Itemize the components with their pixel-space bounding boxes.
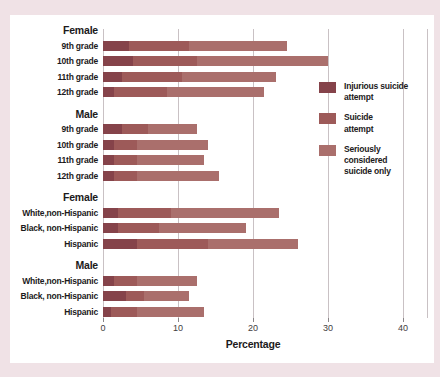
bar-2-2 (103, 239, 298, 249)
x-tick-40 (403, 318, 404, 322)
segment-considered (137, 140, 208, 150)
group-header-1: Male (12, 108, 98, 120)
segment-attempt (118, 223, 159, 233)
segment-attempt (114, 155, 137, 165)
legend-item-0: Injurious suicideattempt (319, 81, 429, 103)
legend-label-line: suicide only (344, 166, 391, 177)
segment-injurious (103, 41, 129, 51)
segment-considered (189, 41, 287, 51)
x-tick-0 (103, 318, 104, 322)
segment-considered (167, 87, 265, 97)
segment-injurious (103, 124, 122, 134)
segment-attempt (137, 239, 208, 249)
row-label-3-0: White,non-Hispanic (12, 276, 98, 286)
segment-attempt (133, 56, 197, 66)
bar-0-3 (103, 87, 264, 97)
segment-considered (144, 291, 189, 301)
segment-considered (197, 56, 328, 66)
row-label-3-1: Black, non-Hispanic (12, 291, 98, 301)
segment-considered (137, 155, 205, 165)
segment-injurious (103, 276, 114, 286)
row-label-1-1: 10th grade (12, 140, 98, 150)
segment-injurious (103, 72, 122, 82)
bar-2-0 (103, 208, 279, 218)
bar-0-2 (103, 72, 276, 82)
segment-considered (208, 239, 298, 249)
row-label-0-1: 10th grade (12, 56, 98, 66)
legend-swatch-icon (319, 82, 336, 93)
bar-2-1 (103, 223, 246, 233)
segment-injurious (103, 239, 137, 249)
segment-attempt (122, 124, 148, 134)
bar-0-0 (103, 41, 287, 51)
group-header-0: Female (12, 24, 98, 36)
x-tick-10 (178, 318, 179, 322)
x-tick-label-20: 20 (248, 323, 258, 333)
segment-considered (137, 307, 205, 317)
bar-1-0 (103, 124, 197, 134)
legend-swatch-icon (319, 145, 336, 156)
row-label-1-0: 9th grade (12, 124, 98, 134)
group-header-2: Female (12, 191, 98, 203)
segment-considered (148, 124, 197, 134)
row-label-3-2: Hispanic (12, 307, 98, 317)
group-header-3: Male (12, 259, 98, 271)
segment-considered (137, 276, 197, 286)
row-label-1-3: 12th grade (12, 171, 98, 181)
segment-attempt (118, 208, 171, 218)
segment-injurious (103, 171, 114, 181)
segment-attempt (114, 140, 137, 150)
legend-label: Seriouslyconsideredsuicide only (344, 144, 391, 178)
x-tick-20 (253, 318, 254, 322)
bar-1-3 (103, 171, 219, 181)
bar-3-0 (103, 276, 197, 286)
legend-item-2: Seriouslyconsideredsuicide only (319, 144, 429, 178)
segment-injurious (103, 155, 114, 165)
bar-1-1 (103, 140, 208, 150)
segment-attempt (111, 307, 137, 317)
segment-attempt (114, 171, 137, 181)
row-label-2-2: Hispanic (12, 239, 98, 249)
segment-injurious (103, 140, 114, 150)
legend-label-line: attempt (344, 124, 373, 135)
x-tick-label-40: 40 (398, 323, 408, 333)
x-tick-30 (328, 318, 329, 322)
legend-label-line: Seriously (344, 144, 391, 155)
segment-considered (171, 208, 280, 218)
bar-3-1 (103, 291, 189, 301)
segment-injurious (103, 223, 118, 233)
segment-considered (159, 223, 245, 233)
segment-injurious (103, 208, 118, 218)
x-tick-label-30: 30 (323, 323, 333, 333)
row-label-0-3: 12th grade (12, 87, 98, 97)
legend-label: Injurious suicideattempt (344, 81, 408, 103)
row-label-1-2: 11th grade (12, 155, 98, 165)
segment-injurious (103, 307, 111, 317)
bar-1-2 (103, 155, 204, 165)
segment-injurious (103, 56, 133, 66)
row-label-2-1: Black, non-Hispanic (12, 223, 98, 233)
segment-attempt (114, 276, 137, 286)
segment-considered (182, 72, 276, 82)
x-tick-label-10: 10 (173, 323, 183, 333)
segment-injurious (103, 291, 126, 301)
legend-label-line: attempt (344, 92, 408, 103)
row-label-2-0: White,non-Hispanic (12, 208, 98, 218)
bar-0-1 (103, 56, 328, 66)
segment-injurious (103, 87, 114, 97)
row-label-0-2: 11th grade (12, 72, 98, 82)
x-tick-label-0: 0 (100, 323, 105, 333)
row-label-0-0: 9th grade (12, 41, 98, 51)
x-axis-title: Percentage (226, 338, 281, 350)
legend-item-1: Suicideattempt (319, 112, 429, 134)
legend-label-line: Suicide (344, 112, 373, 123)
segment-attempt (129, 41, 189, 51)
legend-label: Suicideattempt (344, 112, 373, 134)
legend-label-line: considered (344, 155, 391, 166)
chart-panel: 010203040Female9th grade10th grade11th g… (10, 15, 434, 363)
legend-label-line: Injurious suicide (344, 81, 408, 92)
figure-canvas: 010203040Female9th grade10th grade11th g… (0, 0, 440, 377)
segment-attempt (114, 87, 167, 97)
segment-attempt (126, 291, 145, 301)
bar-3-2 (103, 307, 204, 317)
